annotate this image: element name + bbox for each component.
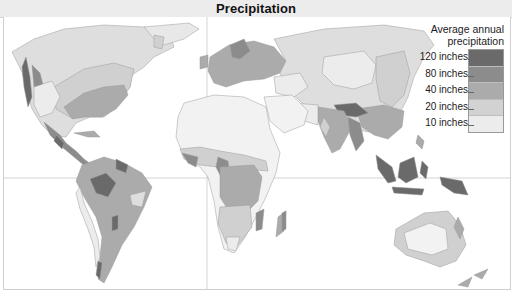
legend-swatches xyxy=(468,49,504,133)
africa xyxy=(176,95,280,253)
new-zealand xyxy=(458,269,488,287)
australia xyxy=(394,211,466,267)
south-america xyxy=(76,157,152,283)
legend-title-line2: precipitation xyxy=(406,35,506,47)
madagascar xyxy=(276,211,286,237)
swatch-120 xyxy=(469,50,503,67)
map-frame: Average annual precipitation 120 inches … xyxy=(3,17,511,290)
swatch-10 xyxy=(469,116,503,132)
legend-title-line1: Average annual xyxy=(406,23,506,35)
europe xyxy=(200,39,286,87)
legend-labels: 120 inches 80 inches 40 inches 20 inches… xyxy=(420,49,468,132)
swatch-20 xyxy=(469,100,503,117)
legend-label-120: 120 inches xyxy=(420,49,468,66)
legend-label-80: 80 inches xyxy=(420,66,468,83)
legend-body: 120 inches 80 inches 40 inches 20 inches… xyxy=(406,49,506,133)
swatch-80 xyxy=(469,67,503,84)
swatch-40 xyxy=(469,83,503,100)
legend-label-40: 40 inches xyxy=(420,82,468,99)
indonesia xyxy=(376,135,468,195)
legend-label-20: 20 inches xyxy=(420,99,468,116)
legend: Average annual precipitation 120 inches … xyxy=(406,23,506,133)
map-title: Precipitation xyxy=(0,1,512,16)
legend-label-10: 10 inches xyxy=(420,115,468,132)
title-bar: Precipitation xyxy=(0,0,512,18)
north-america xyxy=(12,23,199,167)
